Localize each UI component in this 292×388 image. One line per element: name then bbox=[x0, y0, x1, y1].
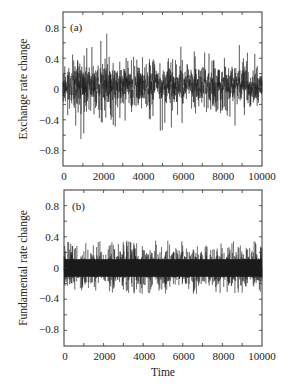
panel-b-series bbox=[64, 241, 262, 294]
panel-b-xtick-4: 8000 bbox=[212, 350, 235, 362]
panel-a-ytick-0: 0.8 bbox=[45, 22, 59, 34]
panel-a-xtick-0: 0 bbox=[61, 170, 67, 182]
panel-a-ytick-2: 0 bbox=[54, 83, 60, 95]
panel-a-series bbox=[63, 34, 262, 139]
panel-a-ylabel: Exchange rate change bbox=[17, 39, 30, 140]
panel-b-ytick-3: −0.4 bbox=[39, 292, 59, 304]
panel-a-ytick-1: 0.4 bbox=[45, 53, 59, 65]
panel-a-xtick-3: 6000 bbox=[172, 170, 195, 182]
panel-a-ytick-3: −0.4 bbox=[39, 114, 59, 126]
panel-b-ytick-0: 0.8 bbox=[45, 200, 59, 212]
panel-b-xtick-1: 2000 bbox=[94, 350, 117, 362]
panel-b-ylabel: Fundamental rate change bbox=[17, 210, 30, 326]
panel-b-xtick-2: 4000 bbox=[133, 350, 156, 362]
panel-b-plot: (b) 0.8 0.4 0 −0.4 −0.8 0 2000 4000 6000… bbox=[17, 190, 276, 378]
panel-b-xtick-5: 10000 bbox=[248, 350, 276, 362]
panel-b-ytick-2: 0 bbox=[54, 262, 60, 274]
panel-a-tag: (a) bbox=[70, 21, 83, 34]
panel-b-xtick-3: 6000 bbox=[173, 350, 196, 362]
panel-b-tag: (b) bbox=[72, 200, 85, 213]
panel-a-ytick-4: −0.8 bbox=[39, 144, 59, 156]
panel-b-xtick-0: 0 bbox=[62, 350, 68, 362]
figure: (a) 0.8 0.4 0 −0.4 −0.8 0 2000 4000 6000… bbox=[0, 0, 292, 388]
panel-a-xtick-2: 4000 bbox=[133, 170, 156, 182]
panel-a-xtick-4: 8000 bbox=[212, 170, 235, 182]
panel-a-xtick-1: 2000 bbox=[93, 170, 116, 182]
panel-b-ytick-1: 0.4 bbox=[45, 231, 59, 243]
panel-a-plot: (a) 0.8 0.4 0 −0.4 −0.8 0 2000 4000 6000… bbox=[17, 12, 276, 182]
panel-b-ytick-4: −0.8 bbox=[39, 323, 59, 335]
panel-b-xlabel: Time bbox=[151, 366, 175, 378]
panel-a-xtick-5: 10000 bbox=[248, 170, 276, 182]
